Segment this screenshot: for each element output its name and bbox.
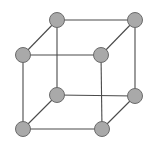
edge-bottom-back-left-to-bottom-back-right: [57, 95, 135, 96]
node-top-front-left: [16, 48, 31, 63]
cube-graph-canvas: [0, 0, 155, 148]
node-bottom-back-right: [128, 89, 143, 104]
node-bottom-front-left: [16, 122, 31, 137]
node-bottom-front-right: [95, 122, 110, 137]
cube-diagram: [0, 0, 155, 148]
edge-layer: [23, 20, 135, 129]
node-top-back-right: [128, 13, 143, 28]
node-top-front-right: [94, 48, 109, 63]
node-bottom-back-left: [50, 88, 65, 103]
edge-top-front-right-to-bottom-front-right: [101, 55, 102, 129]
node-top-back-left: [50, 13, 65, 28]
